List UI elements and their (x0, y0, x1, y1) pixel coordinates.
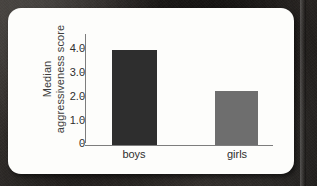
bar-boys[interactable] (112, 50, 157, 145)
y-tick-label-1: 1.0 (59, 115, 85, 126)
x-tick-label-girls: girls (227, 148, 247, 160)
y-axis-line (85, 34, 86, 143)
y-axis-tick-3 (81, 72, 85, 73)
x-axis-tick-labels: boys girls (85, 148, 273, 164)
background-seam (300, 0, 306, 186)
bar-chart: Median aggressiveness score 4.0 3.0 2.0 … (8, 8, 294, 174)
y-axis-tick-0 (81, 143, 85, 144)
x-axis-line (85, 145, 273, 146)
x-tick-label-boys: boys (122, 148, 145, 160)
figure-card: Median aggressiveness score 4.0 3.0 2.0 … (8, 8, 294, 174)
axes-area (85, 34, 273, 146)
y-axis-tick-1 (81, 119, 85, 120)
y-axis-tick-2 (81, 96, 85, 97)
y-axis-tick-4 (81, 48, 85, 49)
y-axis-title-line-1: Median (41, 61, 54, 98)
bar-girls[interactable] (215, 91, 258, 146)
y-axis-tick-labels: 4.0 3.0 2.0 1.0 0 (57, 8, 85, 174)
screenshot-root: Median aggressiveness score 4.0 3.0 2.0 … (0, 0, 317, 186)
